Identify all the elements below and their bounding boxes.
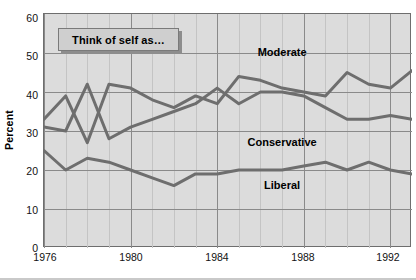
x-tick-1988: 1988	[291, 251, 314, 263]
x-tick-1992: 1992	[376, 251, 399, 263]
y-tick-30: 30	[10, 123, 38, 141]
series-label-liberal: Liberal	[264, 179, 300, 191]
y-tick-50: 50	[10, 46, 38, 64]
series-label-conservative: Conservative	[248, 136, 317, 148]
x-tick-1976: 1976	[33, 251, 56, 263]
y-tick-20: 20	[10, 161, 38, 179]
y-tick-10: 10	[10, 200, 38, 218]
legend-box: Think of self as…	[58, 28, 179, 51]
x-tick-1980: 1980	[119, 251, 142, 263]
chart-page: Percent 60 50 40 30 20 10 0 1976 1980 19…	[0, 0, 416, 280]
x-tick-1984: 1984	[205, 251, 228, 263]
series-label-moderate: Moderate	[258, 46, 307, 58]
y-tick-60: 60	[10, 8, 38, 26]
legend-caption: Think of self as…	[72, 34, 165, 46]
y-tick-40: 40	[10, 85, 38, 103]
